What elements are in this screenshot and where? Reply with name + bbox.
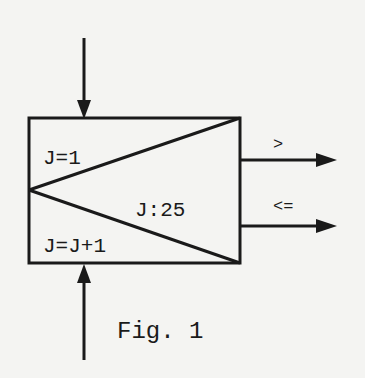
exit-less-equal-label: <= xyxy=(273,197,293,216)
loop-increment-label: J=J+1 xyxy=(43,235,106,258)
figure-caption: Fig. 1 xyxy=(117,318,203,345)
loop-init-label: J=1 xyxy=(43,147,81,170)
exit-arrow-less-equal xyxy=(240,219,337,233)
entry-arrow-top xyxy=(77,38,91,119)
loop-test-label: J:25 xyxy=(135,199,185,222)
return-arrow-bottom xyxy=(77,264,91,360)
exit-greater-label: > xyxy=(273,135,283,154)
exit-arrow-greater xyxy=(240,153,337,167)
flowchart-loop-diagram: J=1 J:25 J=J+1 > <= Fig. 1 xyxy=(0,0,365,378)
